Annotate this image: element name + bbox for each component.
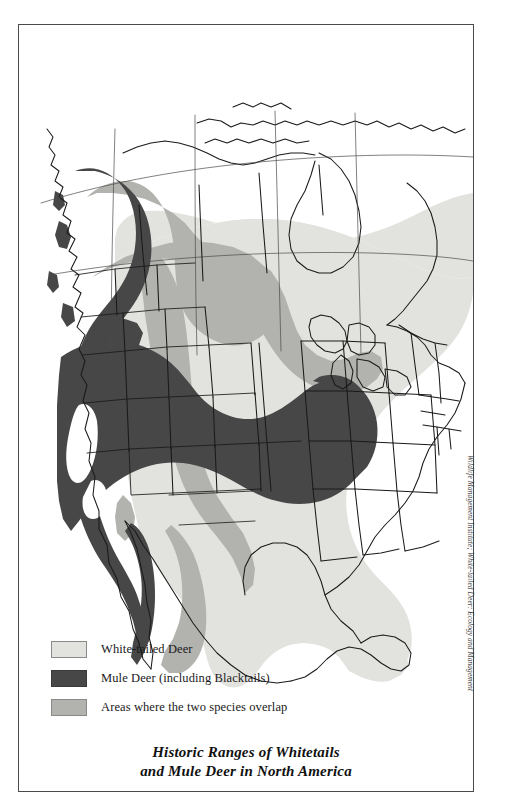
map-canvas [19, 25, 473, 725]
legend-item-muledeer: Mule Deer (including Blacktails) [51, 666, 351, 690]
figure-title-line-1: Historic Ranges of Whitetails [19, 743, 473, 762]
legend-swatch-whitetail [51, 641, 87, 658]
figure-frame: White-tailed Deer Mule Deer (including B… [18, 24, 474, 792]
legend-item-whitetail: White-tailed Deer [51, 637, 351, 661]
figure-page: White-tailed Deer Mule Deer (including B… [0, 0, 512, 812]
legend-label-overlap: Areas where the two species overlap [101, 700, 287, 715]
figure-title: Historic Ranges of Whitetails and Mule D… [19, 743, 473, 781]
figure-credit: Wildlife Management Institute; White-tai… [466, 455, 475, 755]
legend-label-muledeer: Mule Deer (including Blacktails) [101, 671, 270, 686]
north-america-map [19, 25, 473, 725]
legend-label-whitetail: White-tailed Deer [101, 642, 193, 657]
legend-swatch-overlap [51, 699, 87, 716]
map-legend: White-tailed Deer Mule Deer (including B… [51, 637, 351, 724]
legend-swatch-muledeer [51, 670, 87, 687]
figure-title-line-2: and Mule Deer in North America [19, 762, 473, 781]
legend-item-overlap: Areas where the two species overlap [51, 695, 351, 719]
